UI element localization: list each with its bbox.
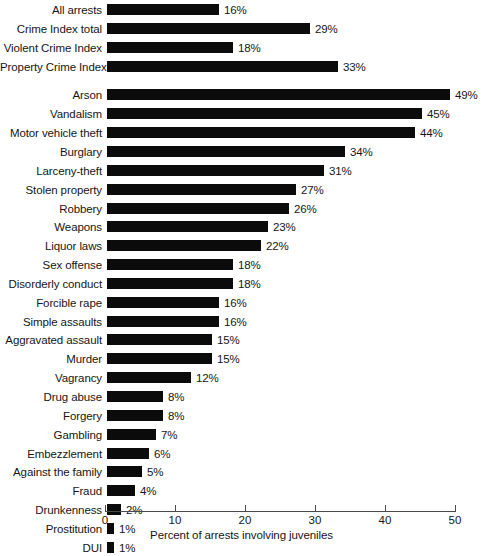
bar xyxy=(107,429,156,440)
bar-value-label: 8% xyxy=(168,408,184,424)
category-label: Larceny-theft xyxy=(0,163,102,179)
bar-row: Weapons23% xyxy=(0,221,483,233)
bar xyxy=(107,410,163,421)
bar xyxy=(107,108,422,119)
bar xyxy=(107,372,191,383)
bar xyxy=(107,61,338,72)
category-label: Motor vehicle theft xyxy=(0,125,102,141)
bar-value-label: 23% xyxy=(273,219,296,235)
bar-row: All arrests16% xyxy=(0,4,483,16)
bar-row: Simple assaults16% xyxy=(0,316,483,328)
category-label: Forcible rape xyxy=(0,295,102,311)
bar xyxy=(107,4,219,15)
bar xyxy=(107,278,233,289)
category-label: Robbery xyxy=(0,201,102,217)
bar-row: Drunkenness2% xyxy=(0,504,483,516)
bar-value-label: 44% xyxy=(420,125,443,141)
bar-row: Against the family5% xyxy=(0,466,483,478)
bar-row: Murder15% xyxy=(0,353,483,365)
category-label: Fraud xyxy=(0,483,102,499)
category-label: Drunkenness xyxy=(0,502,102,518)
category-label: Drug abuse xyxy=(0,389,102,405)
bar xyxy=(107,259,233,270)
bar-row: Embezzlement6% xyxy=(0,448,483,460)
category-label: Vandalism xyxy=(0,106,102,122)
bar-row: Forcible rape16% xyxy=(0,297,483,309)
category-label: DUI xyxy=(0,540,102,556)
bar-row: Prostitution1% xyxy=(0,523,483,535)
bar xyxy=(107,448,149,459)
category-label: Liquor laws xyxy=(0,238,102,254)
bar-value-label: 4% xyxy=(140,483,156,499)
bar-row: Liquor laws22% xyxy=(0,240,483,252)
category-label: Weapons xyxy=(0,219,102,235)
bar-value-label: 5% xyxy=(147,464,163,480)
bar-value-label: 16% xyxy=(224,2,247,18)
category-label: Forgery xyxy=(0,408,102,424)
bar-row: Arson49% xyxy=(0,89,483,101)
bar xyxy=(107,165,324,176)
bar-value-label: 16% xyxy=(224,295,247,311)
bar-value-label: 16% xyxy=(224,314,247,330)
bar xyxy=(107,504,121,515)
category-label: Sex offense xyxy=(0,257,102,273)
bar-row: Property Crime Index33% xyxy=(0,61,483,73)
bar-row: DUI1% xyxy=(0,542,483,554)
category-label: Gambling xyxy=(0,427,102,443)
category-label: Simple assaults xyxy=(0,314,102,330)
bar-value-label: 18% xyxy=(238,257,261,273)
bar-value-label: 7% xyxy=(161,427,177,443)
bar xyxy=(107,391,163,402)
bar xyxy=(107,353,212,364)
bar-row: Crime Index total29% xyxy=(0,23,483,35)
category-label: Prostitution xyxy=(0,521,102,537)
bar xyxy=(107,42,233,53)
bar-value-label: 18% xyxy=(238,276,261,292)
bar-value-label: 12% xyxy=(196,370,219,386)
bar xyxy=(107,23,310,34)
bar-value-label: 22% xyxy=(266,238,289,254)
bar xyxy=(107,523,114,534)
bar-row: Sex offense18% xyxy=(0,259,483,271)
bar-value-label: 49% xyxy=(455,87,478,103)
bar-row: Burglary34% xyxy=(0,146,483,158)
bar xyxy=(107,240,261,251)
bar xyxy=(107,203,289,214)
category-label: Burglary xyxy=(0,144,102,160)
bar-value-label: 8% xyxy=(168,389,184,405)
bar-value-label: 26% xyxy=(294,201,317,217)
category-label: Murder xyxy=(0,351,102,367)
bar xyxy=(107,334,212,345)
category-label: Vagrancy xyxy=(0,370,102,386)
bar-value-label: 18% xyxy=(238,40,261,56)
bar-value-label: 6% xyxy=(154,446,170,462)
category-label: Embezzlement xyxy=(0,446,102,462)
bar-value-label: 2% xyxy=(126,502,142,518)
bar xyxy=(107,146,345,157)
bar xyxy=(107,221,268,232)
bar-row: Vandalism45% xyxy=(0,108,483,120)
bar-value-label: 15% xyxy=(217,332,240,348)
bar-value-label: 1% xyxy=(119,521,135,537)
bar-row: Forgery8% xyxy=(0,410,483,422)
bar xyxy=(107,466,142,477)
category-label: Arson xyxy=(0,87,102,103)
bar xyxy=(107,316,219,327)
category-label: Property Crime Index xyxy=(0,59,102,75)
bar-row: Robbery26% xyxy=(0,203,483,215)
bar-value-label: 29% xyxy=(315,21,338,37)
bar xyxy=(107,89,450,100)
bar xyxy=(107,542,114,553)
bar-row: Stolen property27% xyxy=(0,184,483,196)
bar-value-label: 45% xyxy=(427,106,450,122)
category-label: Aggravated assault xyxy=(0,332,102,348)
bar-row: Disorderly conduct18% xyxy=(0,278,483,290)
category-label: Crime Index total xyxy=(0,21,102,37)
bar-value-label: 1% xyxy=(119,540,135,556)
bar-row: Vagrancy12% xyxy=(0,372,483,384)
category-label: Violent Crime Index xyxy=(0,40,102,56)
bar-value-label: 34% xyxy=(350,144,373,160)
bar-value-label: 31% xyxy=(329,163,352,179)
bar-row: Aggravated assault15% xyxy=(0,334,483,346)
